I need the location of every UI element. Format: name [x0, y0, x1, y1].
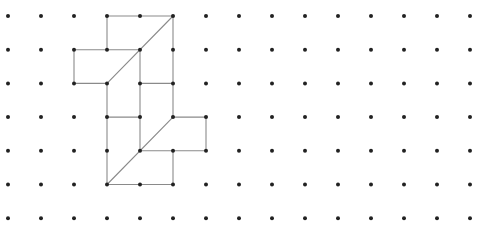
- grid-dot: [435, 14, 439, 18]
- grid-dot: [369, 81, 373, 85]
- grid-dot: [468, 14, 472, 18]
- grid-dot: [435, 115, 439, 119]
- grid-dot: [171, 14, 175, 18]
- grid-dot: [39, 183, 43, 187]
- grid-dot: [6, 183, 10, 187]
- grid-dot: [72, 115, 76, 119]
- grid-dot: [270, 183, 274, 187]
- grid-dot: [303, 149, 307, 153]
- grid-dot: [39, 149, 43, 153]
- grid-dot: [402, 115, 406, 119]
- grid-dot: [6, 48, 10, 52]
- grid-dot: [402, 48, 406, 52]
- grid-dot: [336, 14, 340, 18]
- grid-dot: [204, 14, 208, 18]
- grid-dot: [402, 216, 406, 220]
- grid-dot: [72, 14, 76, 18]
- grid-dot: [105, 48, 109, 52]
- grid-dot: [237, 81, 241, 85]
- grid-dot: [402, 14, 406, 18]
- grid-dot: [6, 115, 10, 119]
- grid-dot: [105, 14, 109, 18]
- grid-dot: [336, 81, 340, 85]
- grid-dot: [369, 216, 373, 220]
- grid-dot: [237, 183, 241, 187]
- grid-dot: [237, 14, 241, 18]
- grid-dot: [39, 14, 43, 18]
- grid-dot: [39, 115, 43, 119]
- grid-dot: [138, 149, 142, 153]
- grid-dot: [336, 115, 340, 119]
- grid-dot: [435, 81, 439, 85]
- grid-dots: [6, 14, 472, 220]
- grid-dot: [204, 81, 208, 85]
- grid-dot: [303, 14, 307, 18]
- grid-dot: [72, 216, 76, 220]
- grid-dot: [270, 14, 274, 18]
- grid-dot: [6, 14, 10, 18]
- grid-dot: [6, 81, 10, 85]
- grid-dot: [171, 48, 175, 52]
- dot-grid-drawing: [0, 0, 484, 225]
- grid-dot: [435, 48, 439, 52]
- grid-dot: [402, 149, 406, 153]
- grid-dot: [138, 183, 142, 187]
- grid-dot: [336, 216, 340, 220]
- grid-dot: [204, 216, 208, 220]
- grid-dot: [39, 48, 43, 52]
- grid-dot: [105, 183, 109, 187]
- grid-dot: [72, 183, 76, 187]
- grid-dot: [105, 115, 109, 119]
- grid-dot: [72, 48, 76, 52]
- grid-dot: [138, 14, 142, 18]
- grid-dot: [237, 216, 241, 220]
- grid-dot: [72, 149, 76, 153]
- grid-dot: [303, 48, 307, 52]
- grid-dot: [171, 183, 175, 187]
- grid-dot: [204, 149, 208, 153]
- grid-dot: [402, 81, 406, 85]
- grid-dot: [204, 183, 208, 187]
- sketch-lines: [74, 16, 206, 185]
- grid-dot: [237, 48, 241, 52]
- grid-dot: [171, 81, 175, 85]
- grid-dot: [237, 115, 241, 119]
- grid-dot: [468, 81, 472, 85]
- grid-dot: [6, 216, 10, 220]
- grid-dot: [105, 81, 109, 85]
- grid-dot: [138, 81, 142, 85]
- grid-dot: [72, 81, 76, 85]
- grid-dot: [468, 115, 472, 119]
- grid-dot: [336, 48, 340, 52]
- grid-dot: [39, 81, 43, 85]
- grid-dot: [468, 216, 472, 220]
- grid-dot: [270, 216, 274, 220]
- grid-dot: [303, 216, 307, 220]
- grid-dot: [303, 115, 307, 119]
- grid-dot: [138, 48, 142, 52]
- grid-dot: [468, 149, 472, 153]
- grid-dot: [204, 48, 208, 52]
- grid-dot: [6, 149, 10, 153]
- grid-dot: [435, 149, 439, 153]
- grid-dot: [402, 183, 406, 187]
- grid-dot: [270, 149, 274, 153]
- grid-dot: [171, 149, 175, 153]
- grid-dot: [435, 183, 439, 187]
- grid-dot: [369, 14, 373, 18]
- grid-dot: [138, 115, 142, 119]
- grid-dot: [369, 48, 373, 52]
- grid-dot: [270, 115, 274, 119]
- grid-dot: [204, 115, 208, 119]
- grid-dot: [336, 149, 340, 153]
- grid-dot: [270, 81, 274, 85]
- grid-dot: [435, 216, 439, 220]
- grid-dot: [303, 183, 307, 187]
- grid-dot: [303, 81, 307, 85]
- grid-dot: [270, 48, 274, 52]
- grid-dot: [468, 183, 472, 187]
- grid-dot: [105, 149, 109, 153]
- grid-dot: [237, 149, 241, 153]
- grid-dot: [39, 216, 43, 220]
- grid-dot: [369, 183, 373, 187]
